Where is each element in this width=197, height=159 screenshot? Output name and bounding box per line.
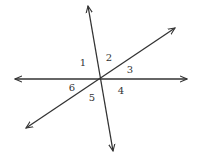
intersecting-lines-diagram: 1 2 3 4 5 6 <box>0 0 197 159</box>
angle-label-5: 5 <box>89 93 95 103</box>
angle-label-2: 2 <box>106 53 112 63</box>
angle-label-4: 4 <box>118 86 124 96</box>
diagonal-line <box>26 28 175 128</box>
angle-label-3: 3 <box>127 65 133 75</box>
angle-label-1: 1 <box>80 58 86 68</box>
lines-svg <box>0 0 197 159</box>
angle-label-6: 6 <box>69 83 75 93</box>
